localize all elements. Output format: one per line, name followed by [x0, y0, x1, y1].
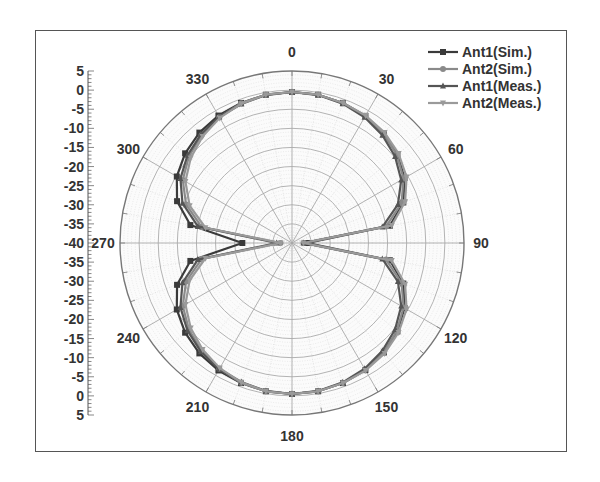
scale-label: -30	[64, 273, 84, 289]
square-marker	[174, 198, 180, 204]
angle-label-150: 150	[375, 399, 399, 415]
scale-label: -10	[64, 350, 84, 366]
legend-label: Ant1(Sim.)	[462, 44, 532, 60]
scale-label: -40	[64, 235, 84, 251]
scale-label: 0	[76, 388, 84, 404]
legend-item: Ant1(Sim.)	[428, 44, 532, 60]
scale-label: -25	[64, 178, 84, 194]
square-marker	[187, 222, 193, 228]
scale-label: -5	[72, 101, 85, 117]
scale-label: -5	[72, 369, 85, 385]
scale-label: 5	[76, 63, 84, 79]
legend: Ant1(Sim.)Ant2(Sim.)Ant1(Meas.)Ant2(Meas…	[428, 44, 541, 111]
legend-label: Ant1(Meas.)	[462, 78, 541, 94]
angle-label-330: 330	[186, 71, 210, 87]
scale-label: -20	[64, 159, 84, 175]
legend-item: Ant2(Meas.)	[428, 95, 541, 111]
legend-item: Ant2(Sim.)	[428, 61, 532, 77]
scale-label: -25	[64, 292, 84, 308]
square-marker	[239, 240, 245, 246]
scale-label: 0	[76, 82, 84, 98]
circle-marker	[440, 66, 446, 72]
polar-chart: 0306090120150180210240270300330 50-5-10-…	[0, 0, 600, 482]
angle-label-30: 30	[379, 71, 395, 87]
scale-label: -10	[64, 120, 84, 136]
radial-scale: 50-5-10-15-20-25-30-35-40-35-30-25-20-15…	[64, 63, 94, 423]
legend-label: Ant2(Meas.)	[462, 95, 541, 111]
square-marker	[440, 49, 446, 55]
angle-label-300: 300	[117, 141, 141, 157]
scale-label: 5	[76, 407, 84, 423]
legend-label: Ant2(Sim.)	[462, 61, 532, 77]
angle-label-120: 120	[444, 330, 468, 346]
angle-label-240: 240	[117, 330, 141, 346]
scale-label: -30	[64, 197, 84, 213]
square-marker	[187, 258, 193, 264]
angle-label-210: 210	[186, 399, 210, 415]
scale-label: -20	[64, 311, 84, 327]
legend-item: Ant1(Meas.)	[428, 78, 541, 94]
scale-label: -15	[64, 139, 84, 155]
angle-label-90: 90	[473, 235, 489, 251]
scale-label: -35	[64, 254, 84, 270]
angle-label-270: 270	[91, 235, 115, 251]
angle-label-60: 60	[448, 141, 464, 157]
angle-label-0: 0	[288, 44, 296, 60]
angle-label-180: 180	[280, 428, 304, 444]
scale-label: -35	[64, 216, 84, 232]
scale-label: -15	[64, 331, 84, 347]
square-marker	[174, 282, 180, 288]
polar-grid	[120, 71, 464, 415]
